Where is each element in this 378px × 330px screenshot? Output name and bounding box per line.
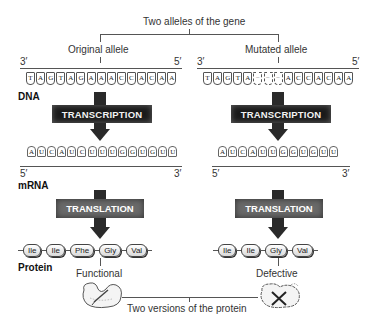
mutated-dna-backbone — [197, 68, 359, 69]
mrna-base: G — [279, 146, 288, 157]
dna-base: T — [233, 72, 242, 85]
mrna-base: U — [329, 146, 338, 157]
original-allele-label: Original allele — [68, 44, 129, 56]
protein-row-label: Protein — [18, 262, 52, 273]
dna-base: C — [324, 72, 333, 85]
defective-label: Defective — [256, 268, 298, 280]
dna-base: G — [223, 72, 232, 85]
dna-base: C — [294, 72, 303, 85]
functional-label: Functional — [76, 268, 122, 280]
dna-base: A — [66, 72, 75, 85]
original-translation-arrow-head — [90, 227, 110, 239]
mrna-base: G — [128, 146, 137, 157]
amino-acid-bead: Gly — [265, 244, 287, 257]
gene-mutation-diagram: Two alleles of the gene Original allele … — [0, 0, 378, 330]
mrna-base: U — [108, 146, 117, 157]
original-outcome-tick — [100, 258, 101, 266]
dna-base: − — [264, 72, 273, 85]
mutated-translation-arrow-head — [268, 227, 288, 239]
mutated-transcription-arrow-head — [268, 129, 288, 141]
mrna-base: U — [158, 146, 167, 157]
defective-protein-icon — [258, 280, 302, 310]
bottom-bracket-stem — [189, 297, 190, 302]
amino-acid-bead: Ile — [218, 244, 236, 257]
dna-base: A — [314, 72, 323, 85]
dna-base: C — [127, 72, 136, 85]
amino-acid-bead: Ile — [46, 244, 64, 257]
amino-acid-bead: Ile — [241, 244, 259, 257]
mutated-translation-box: TRANSLATION — [235, 199, 323, 218]
amino-acid-bead: Ile — [23, 244, 41, 257]
original-mrna-3prime: 3′ — [174, 168, 181, 180]
dna-base: − — [274, 72, 283, 85]
mrna-base: G — [289, 146, 298, 157]
mrna-base: G — [118, 146, 127, 157]
mrna-base: U — [88, 146, 97, 157]
dna-base: A — [87, 72, 96, 85]
mrna-base: A — [218, 146, 227, 157]
dna-base: A — [284, 72, 293, 85]
mutated-allele-tick — [278, 57, 279, 63]
mutated-dna-3prime: 3′ — [197, 56, 204, 68]
mrna-row-label: mRNA — [18, 180, 49, 191]
title-bracket-right-leg — [278, 34, 279, 42]
mrna-base: G — [309, 146, 318, 157]
dna-base: A — [107, 72, 116, 85]
mutated-transcription-box: TRANSCRIPTION — [231, 105, 331, 123]
mrna-base: C — [77, 146, 86, 157]
dna-base: G — [76, 72, 85, 85]
bottom-bracket — [122, 297, 258, 298]
mutated-mrna-strand: AUCAUUGGUGUU — [218, 146, 339, 157]
mrna-base: A — [248, 146, 257, 157]
mrna-base: U — [228, 146, 237, 157]
original-dna-strand: TAGTAGAAACCACAA — [26, 72, 177, 85]
mrna-base: U — [299, 146, 308, 157]
mutated-mrna-backbone — [212, 166, 350, 167]
mutated-dna-strand: TAGTA−−−ACCACAA — [203, 72, 354, 85]
dna-base: A — [344, 72, 353, 85]
mrna-base: C — [47, 146, 56, 157]
dna-base: A — [243, 72, 252, 85]
original-transcription-arrow-head — [90, 129, 110, 141]
dna-base: − — [253, 72, 262, 85]
mrna-base: A — [57, 146, 66, 157]
dna-base: C — [147, 72, 156, 85]
mutated-mrna-5prime: 5′ — [212, 168, 219, 180]
amino-acid-bead: Val — [292, 244, 313, 257]
peptide-bond — [147, 250, 152, 251]
dna-base: A — [97, 72, 106, 85]
dna-base: G — [46, 72, 55, 85]
mutated-protein-chain: IleIleGlyVal — [213, 244, 318, 257]
original-translation-box: TRANSLATION — [56, 199, 144, 218]
bottom-caption: Two versions of the protein — [127, 303, 247, 315]
mutated-allele-label: Mutated allele — [245, 44, 307, 56]
mrna-base: G — [148, 146, 157, 157]
dna-base: A — [167, 72, 176, 85]
dna-base: C — [304, 72, 313, 85]
dna-base: T — [203, 72, 212, 85]
original-mrna-strand: AUCAUCUUUGGUGUU — [27, 146, 178, 157]
mrna-base: U — [98, 146, 107, 157]
amino-acid-bead: Val — [126, 244, 147, 257]
dna-base: A — [213, 72, 222, 85]
original-mrna-backbone — [20, 166, 182, 167]
diagram-title: Two alleles of the gene — [143, 16, 245, 28]
title-bracket-left-leg — [100, 34, 101, 42]
mutated-dna-5prime: 5′ — [352, 56, 359, 68]
amino-acid-bead: Gly — [99, 244, 121, 257]
mutated-outcome-tick — [278, 258, 279, 266]
mrna-base: U — [268, 146, 277, 157]
mrna-base: U — [67, 146, 76, 157]
dna-base: T — [56, 72, 65, 85]
mutated-mrna-3prime: 3′ — [342, 168, 349, 180]
mrna-base: U — [138, 146, 147, 157]
original-allele-tick — [100, 57, 101, 63]
functional-protein-icon — [80, 280, 124, 310]
mrna-base: U — [168, 146, 177, 157]
original-dna-3prime: 3′ — [20, 56, 27, 68]
original-dna-5prime: 5′ — [174, 56, 181, 68]
original-protein-chain: IleIlePheGlyVal — [18, 244, 152, 257]
dna-base: C — [117, 72, 126, 85]
original-transcription-box: TRANSCRIPTION — [52, 105, 152, 123]
dna-base: A — [137, 72, 146, 85]
